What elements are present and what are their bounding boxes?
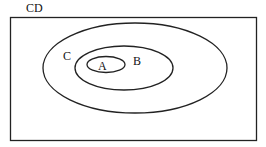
universe-rectangle (11, 18, 257, 141)
set-c-label: C (63, 50, 71, 62)
universe-label: CD (26, 2, 43, 14)
set-c-ellipse (43, 23, 227, 113)
diagram-canvas (0, 0, 266, 147)
set-a-label: A (98, 60, 107, 72)
set-b-label: B (133, 55, 141, 67)
